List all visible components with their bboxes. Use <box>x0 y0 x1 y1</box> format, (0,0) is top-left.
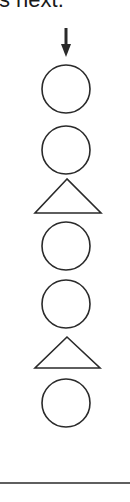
shape-sequence-diagram <box>0 0 130 502</box>
circle-shape-2 <box>42 126 90 174</box>
down-arrow-icon <box>61 28 71 57</box>
circle-shape-1 <box>42 65 90 113</box>
triangle-shape-2 <box>35 337 100 368</box>
triangle-shape-1 <box>35 179 101 213</box>
circle-shape-4 <box>42 280 90 328</box>
circle-shape-3 <box>42 222 90 270</box>
circle-shape-5 <box>42 379 90 427</box>
